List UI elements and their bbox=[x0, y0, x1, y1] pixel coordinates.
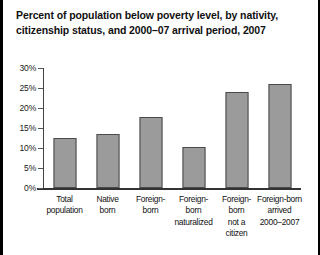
y-tick-label: 30% bbox=[20, 63, 36, 73]
bar-slot bbox=[258, 68, 301, 188]
chart-figure: Percent of population below poverty leve… bbox=[0, 0, 320, 255]
bar-0 bbox=[53, 138, 76, 188]
x-label-5: Foreign-bornarrived2000–2007 bbox=[252, 194, 307, 228]
bar-3 bbox=[182, 147, 205, 188]
bar-slot bbox=[86, 68, 129, 188]
bar-1 bbox=[96, 134, 119, 188]
y-tick-mark bbox=[38, 188, 43, 189]
plot-area: 0%5%10%15%20%25%30% bbox=[43, 68, 301, 189]
bar-slot bbox=[215, 68, 258, 188]
y-tick-label: 10% bbox=[20, 143, 36, 153]
x-label-line: citizen bbox=[209, 228, 264, 239]
bar-4 bbox=[225, 92, 248, 188]
x-label-line: Foreign-born bbox=[252, 194, 307, 205]
bar-2 bbox=[139, 117, 162, 188]
bar-slot bbox=[43, 68, 86, 188]
y-tick-label: 25% bbox=[20, 83, 36, 93]
chart-title: Percent of population below poverty leve… bbox=[16, 8, 306, 38]
x-label-line: arrived bbox=[252, 205, 307, 216]
x-axis-labels: TotalpopulationNativebornForeign-bornFor… bbox=[43, 194, 301, 252]
x-label-line: 2000–2007 bbox=[252, 217, 307, 228]
y-tick-label: 0% bbox=[24, 183, 36, 193]
y-tick-label: 15% bbox=[20, 123, 36, 133]
bar-slot bbox=[172, 68, 215, 188]
y-tick-label: 20% bbox=[20, 103, 36, 113]
y-tick-label: 5% bbox=[24, 163, 36, 173]
bar-slot bbox=[129, 68, 172, 188]
bar-5 bbox=[268, 84, 291, 188]
x-axis-line bbox=[37, 188, 301, 190]
bar-series bbox=[43, 68, 301, 188]
